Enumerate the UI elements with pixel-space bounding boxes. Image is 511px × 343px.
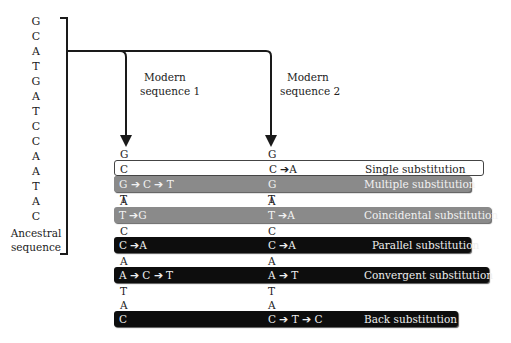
seq2-base: A: [268, 299, 276, 311]
seq2-base: A: [268, 195, 276, 207]
bar-label: Coincidental substitution: [364, 208, 498, 222]
ancestral-base: C: [24, 134, 48, 149]
bar-coincidental-substitution: T ➔G T ➔A Coincidental substitution: [114, 207, 491, 223]
seq1-base: T: [120, 285, 127, 297]
seq2-value: C ➔A: [268, 238, 296, 252]
bar-label: Single substitution: [365, 162, 465, 176]
ancestral-base: C: [24, 29, 48, 44]
bar-label: Parallel substitution: [372, 238, 479, 252]
seq2-value: C ➔ T ➔ C: [268, 312, 322, 326]
ancestral-base: G: [24, 14, 48, 29]
seq1-base: G: [120, 148, 128, 160]
seq1-base: C: [120, 225, 128, 237]
seq1-value: T ➔G: [119, 208, 147, 222]
ancestral-base: T: [24, 179, 48, 194]
seq1-base: A: [120, 299, 128, 311]
ancestral-base: C: [24, 119, 48, 134]
ancestral-base: A: [24, 44, 48, 59]
bar-label: Back substitution: [364, 312, 457, 326]
seq2-base: A: [268, 255, 276, 267]
ancestral-base: A: [24, 194, 48, 209]
ancestral-base: T: [24, 59, 48, 74]
seq2-base: G: [268, 148, 276, 160]
ancestral-base: T: [24, 104, 48, 119]
ancestral-label: Ancestral sequence: [6, 226, 66, 254]
ancestral-base: A: [24, 164, 48, 179]
bar-convergent-substitution: A ➔ C ➔ T A ➔ T Convergent substitution: [114, 267, 489, 283]
seq2-value: G: [268, 177, 276, 191]
seq1-value: G ➔ C ➔ T: [119, 177, 174, 191]
modern1-line2: sequence 1: [140, 84, 200, 98]
seq2-base: T: [268, 285, 275, 297]
ancestral-base: A: [24, 89, 48, 104]
seq1-value: A ➔ C ➔ T: [119, 268, 173, 282]
bar-single-substitution: C C ➔A Single substitution: [114, 160, 484, 176]
ancestral-label-line1: Ancestral: [6, 226, 66, 240]
seq1-value: C: [119, 312, 127, 326]
seq2-value: T ➔A: [268, 208, 295, 222]
ancestral-label-line2: sequence: [6, 240, 66, 254]
seq2-value: C ➔A: [269, 162, 297, 176]
seq1-value: C ➔A: [119, 238, 147, 252]
bar-back-substitution: C C ➔ T ➔ C Back substitution: [114, 311, 458, 327]
bar-parallel-substitution: C ➔A C ➔A Parallel substitution: [114, 237, 471, 253]
bar-label: Multiple substitution: [364, 177, 476, 191]
seq1-value: C: [120, 162, 128, 176]
seq1-base: A: [120, 195, 128, 207]
modern2-line2: sequence 2: [280, 84, 340, 98]
ancestral-base: G: [24, 74, 48, 89]
ancestral-base: A: [24, 149, 48, 164]
modern-sequence-2-label: Modern sequence 2: [280, 70, 340, 98]
modern1-line1: Modern: [140, 70, 200, 84]
seq2-base: C: [268, 225, 276, 237]
seq2-value: A ➔ T: [268, 268, 298, 282]
ancestral-base: C: [24, 209, 48, 224]
bar-multiple-substitution: G ➔ C ➔ T G Multiple substitution: [114, 176, 471, 192]
modern2-line1: Modern: [280, 70, 340, 84]
seq1-base: A: [120, 255, 128, 267]
bar-label: Convergent substitution: [364, 268, 493, 282]
modern-sequence-1-label: Modern sequence 1: [140, 70, 200, 98]
